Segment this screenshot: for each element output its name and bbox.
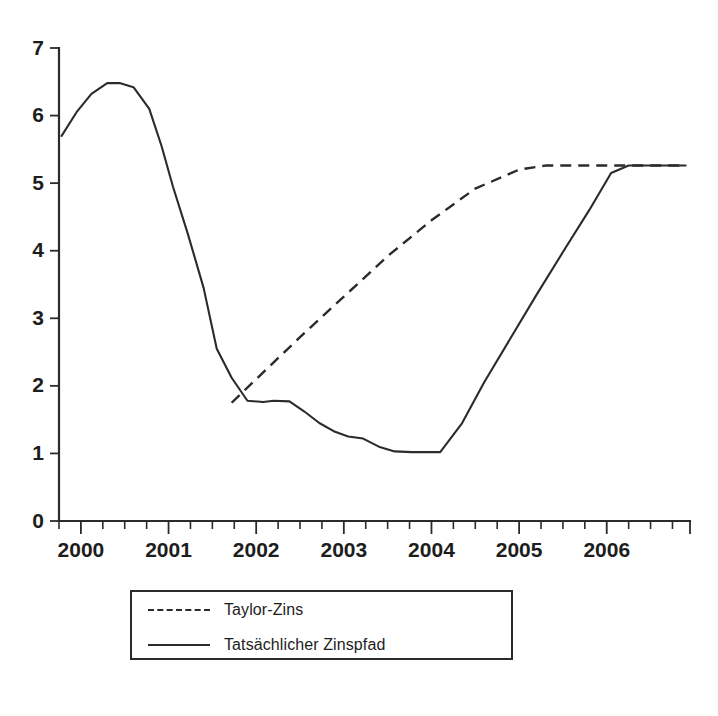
x-tick-label: 2002 [233,538,280,561]
legend-label-tatsaechlicher-zinspfad: Tatsächlicher Zinspfad [224,636,385,654]
source-note [0,700,718,714]
chart-container: 01234567 2000200120022003200420052006 Ta… [0,0,718,716]
series-line-taylor-zins [232,166,686,403]
x-axis: 2000200120022003200420052006 [58,521,690,561]
y-tick-label: 5 [32,171,44,194]
legend-swatch-dashed-icon [148,603,210,617]
legend-swatch-solid-icon [148,638,210,652]
y-tick-label: 3 [32,306,44,329]
chart-legend: Taylor-Zins Tatsächlicher Zinspfad [130,590,513,660]
legend-item-taylor-zins: Taylor-Zins [132,592,511,627]
series-group [62,83,686,452]
legend-label-taylor-zins: Taylor-Zins [224,601,303,619]
legend-item-tatsaechlicher-zinspfad: Tatsächlicher Zinspfad [132,627,511,662]
x-tick-label: 2006 [583,538,630,561]
y-tick-label: 7 [32,36,44,59]
x-tick-label: 2000 [58,538,105,561]
y-tick-label: 2 [32,373,44,396]
x-tick-label: 2005 [496,538,543,561]
y-tick-label: 0 [32,509,44,532]
y-axis: 01234567 [32,36,59,532]
series-line-tats-chlicher-zinspfad [62,83,686,452]
y-tick-label: 1 [32,441,44,464]
x-tick-label: 2003 [320,538,367,561]
x-tick-label: 2001 [145,538,192,561]
y-tick-label: 6 [32,103,44,126]
x-tick-label: 2004 [408,538,455,561]
y-tick-label: 4 [32,238,44,261]
